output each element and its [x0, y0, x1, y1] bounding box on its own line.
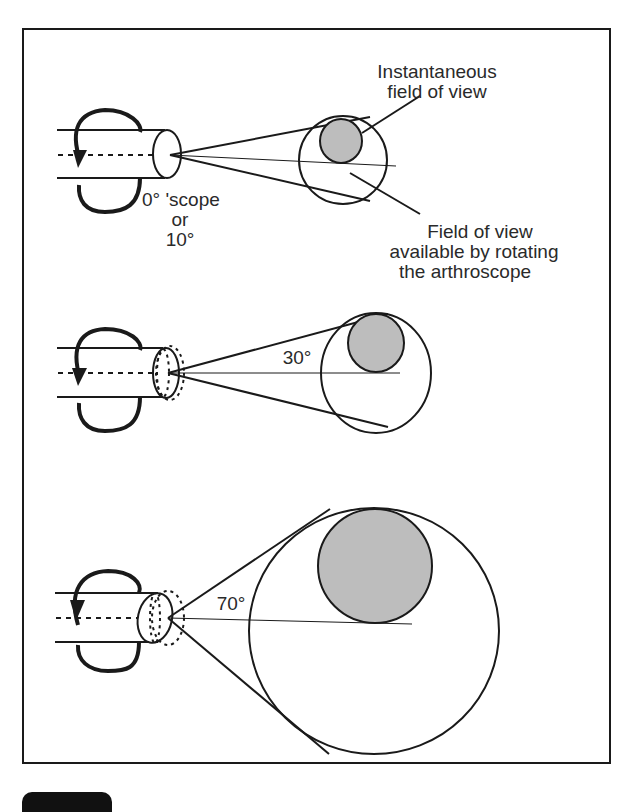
field-of-view-cone [168, 508, 499, 754]
label-scope-line2: or [150, 210, 210, 230]
panel-70-degree-scope [55, 508, 499, 754]
figure-tab-marker [22, 792, 112, 812]
field-of-view-cone [168, 313, 431, 433]
label-instantaneous-line1: Instantaneous [372, 62, 502, 82]
panel-30-degree-scope [57, 313, 431, 433]
rotation-arrow-icon [70, 571, 140, 671]
label-scope-line3: 10° [150, 230, 210, 250]
label-scope-line1: 0° 'scope [142, 190, 262, 210]
label-angle-70: 70° [206, 594, 256, 614]
rotation-arrow-icon [73, 110, 140, 212]
label-angle-30: 30° [272, 348, 322, 368]
label-instantaneous-line2: field of view [372, 82, 502, 102]
label-available-line2: available by rotating [344, 242, 604, 262]
label-available-line3: the arthroscope [355, 262, 575, 282]
rotation-arrow-icon [72, 329, 140, 431]
leader-line-available [350, 173, 420, 214]
label-available-line1: Field of view [370, 222, 590, 242]
